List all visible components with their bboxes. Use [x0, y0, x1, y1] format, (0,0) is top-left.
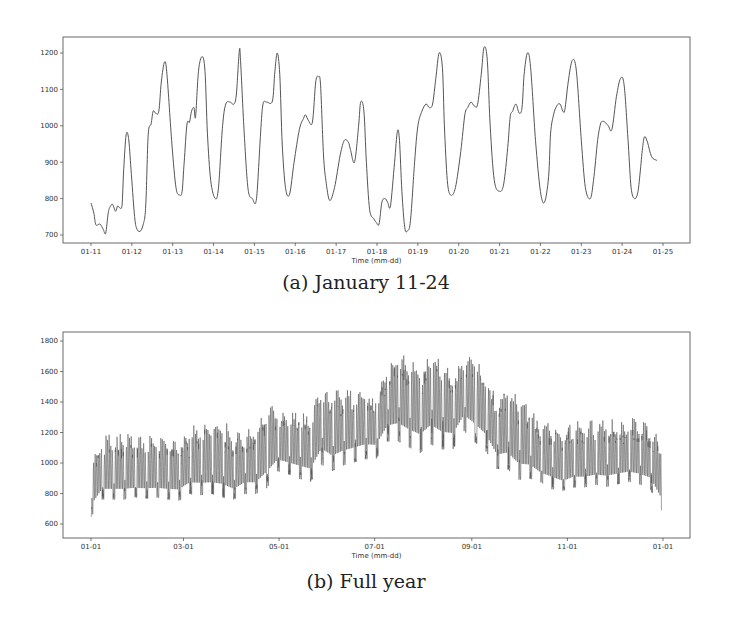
caption-a: (a) January 11-24 — [282, 271, 450, 293]
axes-frame-b — [63, 332, 690, 538]
x-tick-label: 01-01 — [81, 543, 101, 551]
axes-frame-a — [63, 37, 690, 243]
x-tick-label: 11-01 — [557, 543, 577, 551]
y-tick-label: 1000 — [40, 122, 58, 130]
x-tick-label: 01-25 — [653, 248, 673, 256]
x-axis-title-a: Time (mm-dd) — [351, 257, 402, 265]
x-tick-label: 05-01 — [269, 543, 289, 551]
x-tick-label: 01-01 — [653, 543, 673, 551]
x-tick-label: 01-11 — [81, 248, 101, 256]
load-line-b — [91, 356, 661, 518]
x-tick-label: 01-19 — [408, 248, 428, 256]
x-tick-label: 01-23 — [571, 248, 591, 256]
load-line-a — [91, 47, 657, 234]
y-tick-label: 1400 — [40, 398, 58, 406]
x-tick-label: 01-24 — [612, 248, 633, 256]
x-tick-label: 01-16 — [285, 248, 306, 256]
x-tick-label: 03-01 — [173, 543, 193, 551]
plot-area-b: 60080010001200140016001800 01-0103-0105-… — [40, 332, 690, 560]
x-axis-a: 01-1101-1201-1301-1401-1501-1601-1701-18… — [81, 243, 673, 256]
x-tick-label: 01-21 — [489, 248, 509, 256]
y-tick-label: 600 — [45, 520, 58, 528]
y-tick-label: 1100 — [40, 86, 58, 94]
y-tick-label: 1200 — [40, 429, 58, 437]
chart-january: 700800900100011001200 01-1101-1201-1301-… — [0, 0, 732, 300]
y-tick-label: 700 — [45, 231, 58, 239]
x-axis-title-b: Time (mm-dd) — [351, 552, 402, 560]
chart-full-year: 60080010001200140016001800 01-0103-0105-… — [0, 300, 732, 600]
x-tick-label: 01-20 — [449, 248, 469, 256]
plot-area-a: 700800900100011001200 01-1101-1201-1301-… — [40, 37, 690, 265]
y-tick-label: 800 — [45, 490, 58, 498]
y-axis-a: 700800900100011001200 — [40, 49, 63, 239]
x-tick-label: 01-22 — [530, 248, 550, 256]
y-tick-label: 1600 — [40, 368, 58, 376]
x-tick-label: 01-13 — [163, 248, 183, 256]
x-tick-label: 09-01 — [462, 543, 482, 551]
x-tick-label: 01-14 — [203, 248, 224, 256]
x-tick-label: 07-01 — [364, 543, 384, 551]
y-axis-b: 60080010001200140016001800 — [40, 337, 63, 528]
x-tick-label: 01-12 — [122, 248, 142, 256]
x-tick-label: 01-15 — [244, 248, 264, 256]
y-tick-label: 900 — [45, 159, 58, 167]
y-tick-label: 1800 — [40, 337, 58, 345]
x-tick-label: 01-17 — [326, 248, 346, 256]
x-tick-label: 01-18 — [367, 248, 387, 256]
y-tick-label: 1000 — [40, 459, 58, 467]
caption-b: (b) Full year — [306, 570, 425, 592]
y-tick-label: 1200 — [40, 49, 58, 57]
y-tick-label: 800 — [45, 195, 58, 203]
x-axis-b: 01-0103-0105-0107-0109-0111-0101-01 — [81, 538, 673, 551]
figure: 700800900100011001200 01-1101-1201-1301-… — [0, 0, 732, 620]
